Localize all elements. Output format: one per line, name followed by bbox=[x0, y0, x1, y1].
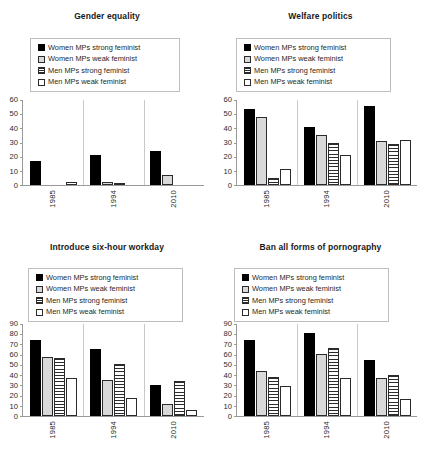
x-tick-label: 1985 bbox=[48, 190, 57, 208]
legend-swatch-gray bbox=[244, 56, 251, 63]
x-tick-cell: 1985 bbox=[22, 421, 83, 439]
bar-group bbox=[357, 324, 417, 416]
legend-label: Men MPs weak feminist bbox=[48, 77, 126, 87]
y-tick-label: 20 bbox=[224, 154, 232, 162]
chart-panel-six-hour-workday: Introduce six-hour workday Women MPs str… bbox=[0, 231, 214, 462]
legend-label: Women MPs weak feminist bbox=[252, 284, 341, 294]
y-axis-labels: 0102030405060 bbox=[214, 100, 234, 186]
x-axis-labels: 198519942010 bbox=[236, 190, 417, 208]
legend-label: Women MPs weak feminist bbox=[48, 54, 137, 64]
bar-group bbox=[297, 324, 357, 416]
bar bbox=[256, 117, 267, 185]
x-axis-labels: 198519942010 bbox=[22, 421, 204, 439]
y-tick-label: 40 bbox=[10, 372, 18, 380]
plot-area: 0102030405060708090 bbox=[0, 324, 214, 417]
legend-label: Men MPs strong feminist bbox=[48, 66, 129, 76]
y-axis-tick bbox=[20, 185, 23, 186]
y-tick-label: 30 bbox=[224, 382, 232, 390]
x-tick-label: 2010 bbox=[169, 190, 178, 208]
y-tick-label: 20 bbox=[10, 393, 18, 401]
x-tick-label: 1994 bbox=[322, 421, 331, 439]
chart-legend: Women MPs strong feminist Women MPs weak… bbox=[236, 38, 391, 92]
y-tick-label: 80 bbox=[224, 331, 232, 339]
y-axis-tick bbox=[20, 365, 23, 366]
y-tick-label: 60 bbox=[10, 96, 18, 104]
y-tick-label: 10 bbox=[10, 168, 18, 176]
x-tick-label: 1994 bbox=[322, 190, 331, 208]
legend-swatch-white bbox=[38, 79, 45, 86]
y-axis-tick bbox=[234, 365, 237, 366]
legend-label: Men MPs strong feminist bbox=[252, 296, 333, 306]
bar bbox=[30, 161, 41, 185]
bar bbox=[90, 349, 101, 416]
y-axis-labels: 0102030405060708090 bbox=[0, 324, 20, 417]
plot-box bbox=[22, 324, 204, 417]
bar bbox=[268, 178, 279, 185]
y-axis-tick bbox=[20, 128, 23, 129]
x-tick-cell: 1985 bbox=[236, 421, 296, 439]
bar bbox=[114, 364, 125, 416]
x-axis-labels: 198519942010 bbox=[236, 421, 417, 439]
y-axis-tick bbox=[20, 100, 23, 101]
y-axis-tick bbox=[234, 385, 237, 386]
plot-box bbox=[236, 100, 417, 186]
legend-item: Men MPs weak feminist bbox=[242, 307, 383, 319]
legend-label: Men MPs strong feminist bbox=[46, 296, 127, 306]
bar bbox=[388, 144, 399, 185]
y-axis-tick bbox=[20, 416, 23, 417]
y-tick-label: 0 bbox=[228, 413, 232, 421]
y-tick-label: 40 bbox=[10, 125, 18, 133]
bar-group bbox=[83, 100, 143, 185]
legend-item: Women MPs weak feminist bbox=[38, 54, 174, 66]
plot-area: 0102030405060 bbox=[0, 100, 214, 186]
y-axis-labels: 0102030405060708090 bbox=[214, 324, 234, 417]
legend-label: Men MPs strong feminist bbox=[254, 66, 335, 76]
x-tick-label: 1985 bbox=[262, 190, 271, 208]
y-axis-tick bbox=[20, 171, 23, 172]
y-axis-tick bbox=[20, 406, 23, 407]
y-tick-label: 0 bbox=[228, 182, 232, 190]
y-axis-tick bbox=[234, 416, 237, 417]
y-axis-tick bbox=[234, 406, 237, 407]
bar bbox=[388, 375, 399, 416]
bar bbox=[364, 106, 375, 185]
legend-item: Women MPs weak feminist bbox=[244, 54, 385, 66]
legend-item: Men MPs weak feminist bbox=[38, 77, 174, 89]
bar-groups bbox=[237, 324, 417, 416]
x-tick-label: 1994 bbox=[109, 421, 118, 439]
y-tick-label: 50 bbox=[10, 362, 18, 370]
y-tick-label: 50 bbox=[10, 111, 18, 119]
bar bbox=[316, 135, 327, 185]
bar bbox=[280, 169, 291, 185]
y-tick-label: 80 bbox=[10, 331, 18, 339]
chart-title: Welfare politics bbox=[214, 11, 427, 21]
y-axis-tick bbox=[234, 114, 237, 115]
bar bbox=[256, 371, 267, 416]
y-axis-tick bbox=[234, 157, 237, 158]
x-tick-cell: 1994 bbox=[83, 190, 144, 208]
bar-group bbox=[83, 324, 143, 416]
legend-label: Women MPs weak feminist bbox=[254, 54, 343, 64]
bar bbox=[316, 354, 327, 416]
y-tick-label: 0 bbox=[14, 413, 18, 421]
plot-area: 0102030405060 bbox=[214, 100, 427, 186]
y-tick-label: 30 bbox=[10, 382, 18, 390]
y-tick-label: 90 bbox=[224, 320, 232, 328]
legend-item: Men MPs strong feminist bbox=[242, 295, 383, 307]
x-tick-label: 2010 bbox=[382, 190, 391, 208]
legend-item: Women MPs weak feminist bbox=[36, 284, 177, 296]
y-axis-tick bbox=[20, 157, 23, 158]
legend-label: Men MPs weak feminist bbox=[254, 77, 332, 87]
y-axis-tick bbox=[20, 143, 23, 144]
chart-panel-ban-pornography: Ban all forms of pornography Women MPs s… bbox=[214, 231, 427, 462]
bar bbox=[186, 410, 197, 416]
bar-group bbox=[237, 324, 297, 416]
bar bbox=[280, 386, 291, 416]
chart-title: Gender equality bbox=[0, 11, 214, 21]
y-tick-label: 20 bbox=[10, 154, 18, 162]
legend-item: Men MPs weak feminist bbox=[36, 307, 177, 319]
x-tick-cell: 2010 bbox=[357, 421, 417, 439]
y-axis-tick bbox=[20, 344, 23, 345]
y-tick-label: 40 bbox=[224, 372, 232, 380]
y-tick-label: 70 bbox=[10, 341, 18, 349]
